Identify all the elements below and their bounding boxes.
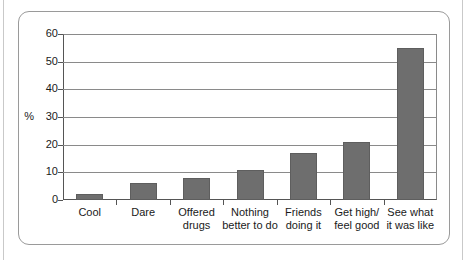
bar [343, 142, 370, 200]
x-axis-category-label: Cool [59, 206, 120, 219]
x-axis-tick [116, 200, 117, 205]
y-axis-tick-label: 30 [36, 111, 58, 122]
x-axis-category-label: See whatit was like [380, 206, 441, 232]
x-axis-tick [330, 200, 331, 205]
plot-area [63, 34, 437, 200]
y-axis-tick-label: 10 [36, 166, 58, 177]
y-axis-tick-label: 20 [36, 139, 58, 150]
bar-series [63, 34, 437, 200]
y-axis-tick-label: 40 [36, 83, 58, 94]
x-axis-category-label: Offereddrugs [166, 206, 227, 232]
page-edge-rule-right [462, 0, 463, 260]
x-axis-category-label: Friendsdoing it [273, 206, 334, 232]
y-axis-tick-labels: 0102030405060 [30, 0, 58, 260]
bar [130, 183, 157, 200]
x-axis-tick [223, 200, 224, 205]
x-axis-category-label: Get high/feel good [326, 206, 387, 232]
y-axis-tick-label: 60 [36, 28, 58, 39]
bar [183, 178, 210, 200]
y-axis-tick-label: 0 [36, 194, 58, 205]
x-axis-tick [170, 200, 171, 205]
bar [76, 194, 103, 200]
bar [237, 170, 264, 200]
bar [397, 48, 424, 200]
y-axis-tick-label: 50 [36, 56, 58, 67]
x-axis-category-label: Dare [112, 206, 173, 219]
x-axis-category-label: Nothingbetter to do [219, 206, 280, 232]
x-axis-tick [384, 200, 385, 205]
y-axis-tick [58, 200, 63, 201]
page-edge-rule-left [3, 0, 4, 260]
bar [290, 153, 317, 200]
x-axis-tick [277, 200, 278, 205]
